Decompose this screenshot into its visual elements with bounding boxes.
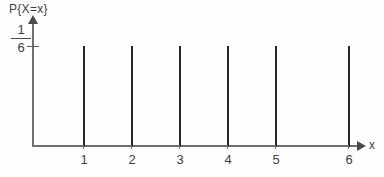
impulse-bar — [83, 46, 85, 147]
x-axis-arrow-icon — [357, 141, 366, 151]
x-axis-tick-label: 3 — [170, 152, 190, 167]
x-axis-tick-label: 2 — [122, 152, 142, 167]
impulse-bar — [179, 46, 181, 147]
x-axis-tick — [83, 145, 84, 149]
x-axis-tick — [131, 145, 132, 149]
x-axis-tick-label: 4 — [218, 152, 238, 167]
x-axis-tick-label: 6 — [339, 152, 359, 167]
fraction-denominator: 6 — [11, 40, 31, 54]
y-axis-tick-label-one-sixth: 1 6 — [11, 23, 31, 54]
probability-mass-function-chart: P{X=x} x 1 6 123456 — [0, 0, 384, 177]
x-axis-tick-label: 5 — [266, 152, 286, 167]
impulse-bar — [348, 46, 350, 147]
fraction-numerator: 1 — [11, 23, 31, 37]
x-axis-tick — [227, 145, 228, 149]
y-axis-label: P{X=x} — [9, 2, 48, 16]
x-axis-tick-label: 1 — [74, 152, 94, 167]
impulse-bar — [275, 46, 277, 147]
x-axis-tick — [275, 145, 276, 149]
x-axis-tick — [179, 145, 180, 149]
impulse-bar — [131, 46, 133, 147]
fraction-bar — [11, 38, 31, 39]
x-axis-line — [32, 145, 361, 147]
x-axis-label: x — [369, 138, 375, 152]
impulse-bar — [227, 46, 229, 147]
x-axis-tick — [348, 145, 349, 149]
y-axis-line — [32, 22, 34, 147]
